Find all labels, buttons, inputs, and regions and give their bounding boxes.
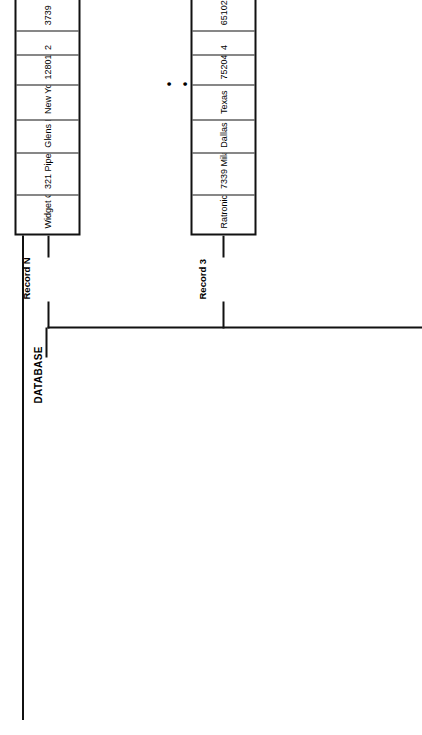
record-3-cell-7: 65102: [192, 0, 254, 30]
record-label-n: Record N: [20, 257, 31, 299]
record-n-cell-1: Widget Co.: [16, 194, 78, 233]
record-n-cell-5: 12801: [16, 54, 78, 84]
record-label-3: Record 3: [196, 258, 207, 299]
record-n-cell-4: New York: [16, 84, 78, 119]
record-n-leader-line: [47, 235, 49, 257]
record-n-cell-7: 3739: [16, 0, 78, 30]
branch-line-record-3: [222, 301, 224, 328]
record-n-cell-6: 2: [16, 30, 78, 55]
record-3-cell-2: 7339 Milan: [192, 152, 254, 193]
record-table-3: Ratronics, Ltd. 7339 Milan Dallas Texas …: [190, 0, 256, 235]
trunk-stub-line: [45, 327, 47, 357]
record-3-cell-6: 4: [192, 30, 254, 55]
record-n-cell-3: Glens Falls: [16, 119, 78, 153]
record-3-cell-3: Dallas: [192, 119, 254, 153]
record-3-cell-4: Texas: [192, 84, 254, 119]
record-3-leader-line: [222, 235, 224, 257]
database-diagram-canvas: DATABASE Record N Widget Co. 321 Pipers …: [0, 0, 422, 735]
record-3-cell-1: Ratronics, Ltd.: [192, 194, 254, 233]
tree-spine-line: [47, 326, 422, 328]
record-table-n: Widget Co. 321 Pipers Rd. Glens Falls Ne…: [14, 0, 80, 235]
record-3-cell-5: 75204: [192, 54, 254, 84]
diagram-title: DATABASE: [32, 346, 43, 403]
branch-line-record-n: [47, 301, 49, 328]
record-n-cell-2: 321 Pipers Rd.: [16, 152, 78, 193]
